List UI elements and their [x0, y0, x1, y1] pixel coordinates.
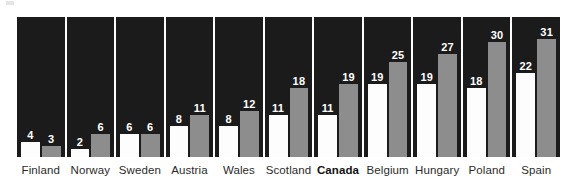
bar-value-label: 11 [194, 102, 206, 114]
bar-series-white [120, 134, 139, 157]
axis-label-hungary: Hungary [413, 160, 461, 182]
bar-value-label: 25 [392, 49, 405, 61]
bar-wrap: 6 [141, 17, 160, 157]
bar-wrap: 11 [269, 17, 288, 157]
bar-series-grey [141, 134, 160, 157]
bar-wrap: 31 [537, 17, 556, 157]
bar-group: 1118 [265, 17, 313, 157]
axis-label-canada: Canada [314, 160, 362, 182]
bar-wrap: 22 [516, 17, 535, 157]
chart-panel-canada: 1119 [314, 17, 362, 157]
bar-value-label: 6 [98, 121, 104, 133]
axis-label-belgium: Belgium [364, 160, 412, 182]
bar-series-grey [91, 134, 110, 157]
bar-value-label: 6 [147, 121, 153, 133]
bar-wrap: 18 [290, 17, 309, 157]
bar-wrap: 3 [42, 17, 61, 157]
bar-value-label: 11 [272, 102, 284, 114]
chart-panel-belgium: 1925 [364, 17, 412, 157]
chart-panel-wales: 812 [215, 17, 263, 157]
bar-series-grey [389, 62, 408, 157]
bar-group: 812 [215, 17, 263, 157]
axis-label-norway: Norway [67, 160, 115, 182]
chart-panel-sweden: 66 [116, 17, 164, 157]
bar-group: 1927 [413, 17, 461, 157]
bar-wrap: 12 [240, 17, 259, 157]
bar-wrap: 8 [219, 17, 238, 157]
bar-series-white [71, 149, 90, 157]
bar-wrap: 2 [71, 17, 90, 157]
bar-wrap: 19 [368, 17, 387, 157]
bar-series-grey [42, 146, 61, 157]
bar-value-label: 8 [225, 113, 231, 125]
bar-value-label: 4 [27, 129, 33, 141]
bar-group: 811 [166, 17, 214, 157]
bar-series-white [269, 115, 288, 157]
bar-series-grey [438, 54, 457, 157]
bar-series-white [219, 126, 238, 157]
bar-series-white [516, 73, 535, 157]
bar-value-label: 19 [342, 71, 355, 83]
bar-wrap: 6 [120, 17, 139, 157]
bar-wrap: 18 [467, 17, 486, 157]
bar-wrap: 4 [21, 17, 40, 157]
bar-value-label: 2 [77, 136, 83, 148]
bar-value-label: 19 [420, 71, 433, 83]
bar-series-grey [537, 39, 556, 157]
bar-wrap: 8 [170, 17, 189, 157]
scan-artifact [6, 1, 14, 5]
axis-label-scotland: Scotland [265, 160, 313, 182]
bar-value-label: 31 [540, 26, 553, 38]
bar-wrap: 25 [389, 17, 408, 157]
plot-area: 432666811812111811191925192718302231 [17, 17, 560, 157]
axis-label-wales: Wales [215, 160, 263, 182]
bar-series-grey [339, 84, 358, 157]
chart-panel-scotland: 1118 [265, 17, 313, 157]
axis-label-spain: Spain [512, 160, 560, 182]
chart-panel-finland: 43 [17, 17, 65, 157]
bar-value-label: 8 [176, 113, 182, 125]
bar-series-grey [488, 42, 507, 157]
axis-label-austria: Austria [166, 160, 214, 182]
bar-wrap: 19 [339, 17, 358, 157]
bar-group: 43 [17, 17, 65, 157]
bar-value-label: 22 [520, 60, 533, 72]
bar-group: 1830 [463, 17, 511, 157]
chart-panel-poland: 1830 [463, 17, 511, 157]
bar-wrap: 11 [318, 17, 337, 157]
axis-label-poland: Poland [463, 160, 511, 182]
chart-panel-hungary: 1927 [413, 17, 461, 157]
bar-series-grey [290, 88, 309, 157]
bar-value-label: 19 [371, 71, 384, 83]
bar-value-label: 18 [293, 75, 306, 87]
bar-series-white [21, 142, 40, 157]
chart-panel-austria: 811 [166, 17, 214, 157]
axis-label-sweden: Sweden [116, 160, 164, 182]
bar-series-grey [240, 111, 259, 157]
bar-value-label: 27 [441, 41, 454, 53]
bar-group: 26 [67, 17, 115, 157]
bar-group: 66 [116, 17, 164, 157]
bar-value-label: 3 [48, 133, 54, 145]
chart-root: 432666811812111811191925192718302231 Fin… [0, 0, 569, 189]
bar-group: 1119 [314, 17, 362, 157]
bar-wrap: 6 [91, 17, 110, 157]
bar-series-white [318, 115, 337, 157]
bar-wrap: 11 [190, 17, 209, 157]
bar-series-white [170, 126, 189, 157]
bar-series-white [467, 88, 486, 157]
bar-series-grey [190, 115, 209, 157]
bar-series-white [417, 84, 436, 157]
bar-value-label: 18 [470, 75, 483, 87]
bar-value-label: 6 [126, 121, 132, 133]
bar-series-white [368, 84, 387, 157]
bar-value-label: 30 [491, 29, 504, 41]
bar-wrap: 30 [488, 17, 507, 157]
bar-value-label: 11 [322, 102, 334, 114]
bar-wrap: 19 [417, 17, 436, 157]
bar-group: 2231 [512, 17, 560, 157]
axis-label-finland: Finland [17, 160, 65, 182]
bar-wrap: 27 [438, 17, 457, 157]
bar-group: 1925 [364, 17, 412, 157]
bar-value-label: 12 [243, 98, 256, 110]
